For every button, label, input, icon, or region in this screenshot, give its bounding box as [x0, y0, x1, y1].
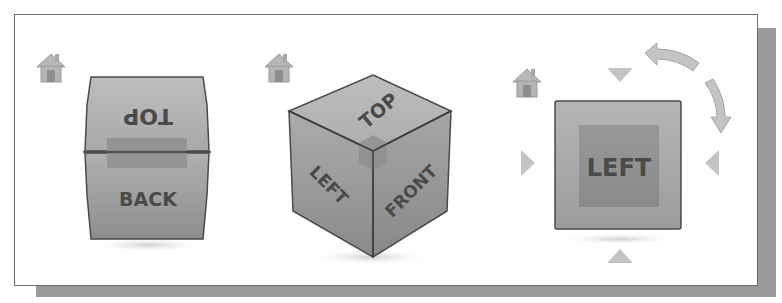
viewcube-left[interactable]: LEFT: [553, 99, 685, 253]
arrow-down-icon[interactable]: [607, 68, 633, 88]
rotate-counterclockwise-icon[interactable]: [643, 41, 703, 81]
rotate-clockwise-icon[interactable]: [701, 77, 737, 141]
face-label-left: LEFT: [587, 154, 652, 182]
edge-highlight: [107, 138, 187, 168]
home-icon[interactable]: [509, 65, 545, 99]
viewcube-figure-frame: TOP BACK: [14, 14, 758, 286]
face-label-top: TOP: [123, 104, 173, 129]
viewcube-back[interactable]: TOP BACK: [81, 75, 215, 259]
home-icon[interactable]: [33, 50, 69, 84]
viewcube-isometric[interactable]: TOP LEFT FRONT: [283, 71, 463, 275]
face-label-back: BACK: [119, 188, 178, 210]
arrow-left-icon[interactable]: [703, 150, 719, 180]
arrow-right-icon[interactable]: [521, 150, 537, 180]
